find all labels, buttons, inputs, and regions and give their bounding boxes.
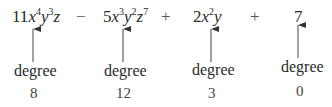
degree-label-4: degree: [281, 59, 324, 75]
degree-arrows: [0, 0, 332, 107]
degree-value-4: 0: [296, 84, 304, 99]
degree-label-1: degree: [14, 63, 57, 79]
degree-value-2: 12: [116, 86, 131, 101]
degree-label-3: degree: [192, 62, 235, 78]
degree-label-2: degree: [104, 63, 147, 79]
degree-value-1: 8: [30, 86, 38, 101]
degree-value-3: 3: [208, 86, 216, 101]
